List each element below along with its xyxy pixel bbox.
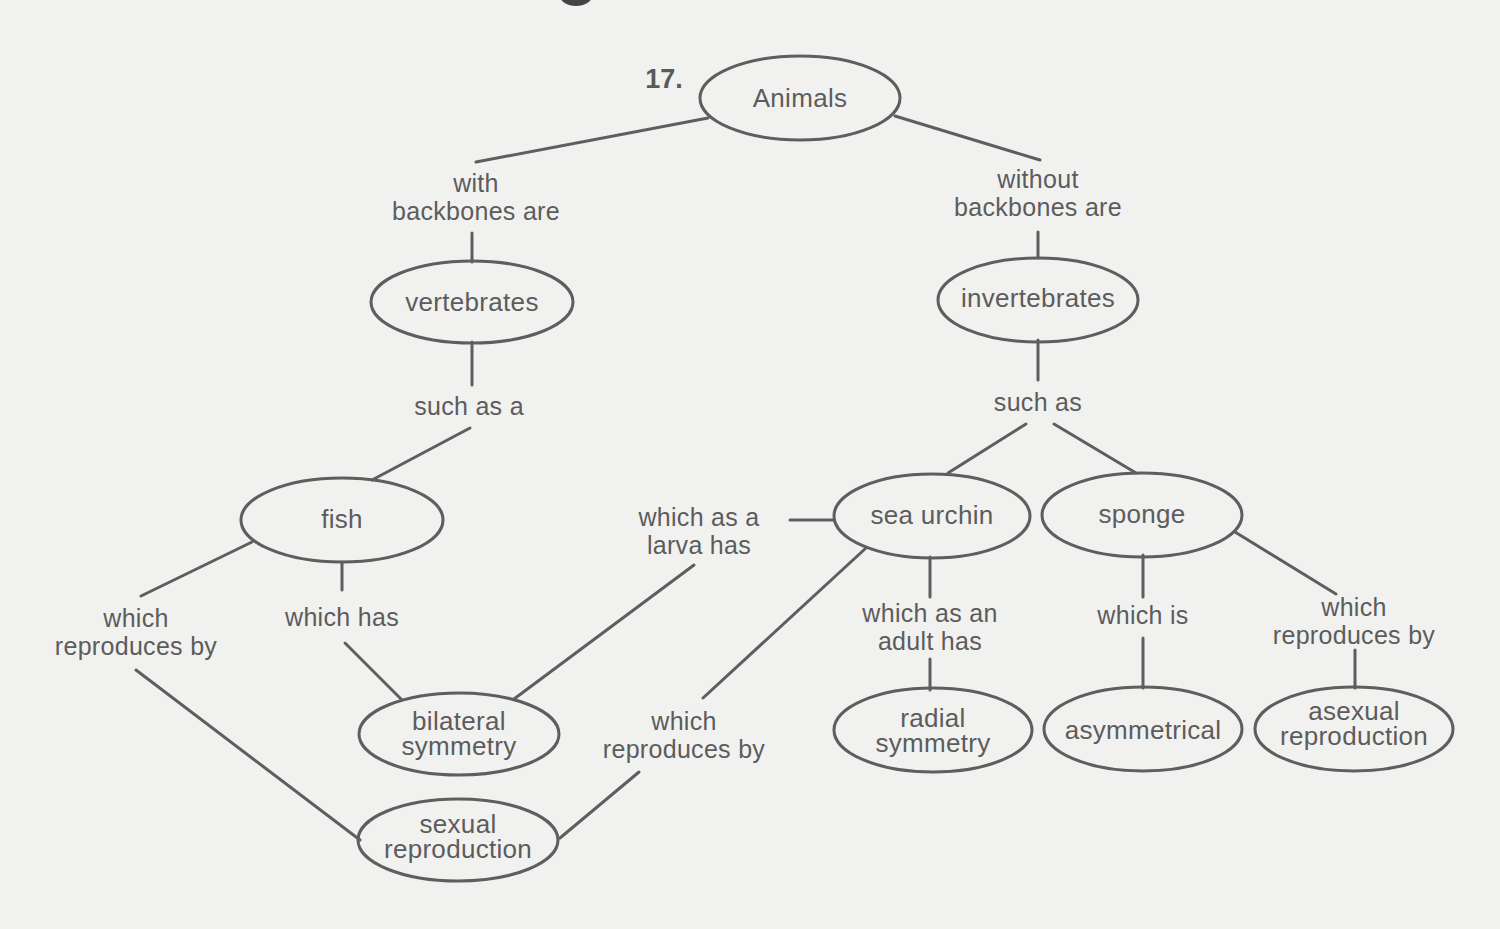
link-which-is: which is [1097,601,1188,629]
node-asymmetrical: asymmetrical [1065,718,1222,743]
link-urchin-reproduces-by: which reproduces by [603,707,765,763]
node-sponge: sponge [1098,502,1185,527]
question-number: 17. [645,64,683,95]
node-vertebrates: vertebrates [405,290,538,315]
link-fish-which-has: which has [285,603,399,631]
link-sponge-reproduces-by: which reproduces by [1273,593,1435,649]
node-fish: fish [321,507,363,532]
node-radial-symmetry: radial symmetry [875,706,990,756]
link-without-backbones: without backbones are [954,165,1122,221]
concept-map: 17. Animals vertebrates invertebrates fi… [0,0,1500,929]
node-animals: Animals [753,86,848,111]
link-such-as-a: such as a [414,392,524,420]
node-sea-urchin: sea urchin [871,503,994,528]
link-adult-has: which as an adult has [862,599,997,655]
link-with-backbones: with backbones are [392,169,560,225]
node-sexual-reproduction: sexual reproduction [384,812,532,862]
link-fish-reproduces-by: which reproduces by [55,604,217,660]
link-such-as: such as [994,388,1082,416]
concept-map-graphics [0,0,1500,929]
link-larva-has: which as a larva has [638,503,759,559]
node-bilateral-symmetry: bilateral symmetry [401,709,516,759]
node-invertebrates: invertebrates [961,286,1115,311]
node-asexual-reproduction: asexual reproduction [1280,699,1428,749]
